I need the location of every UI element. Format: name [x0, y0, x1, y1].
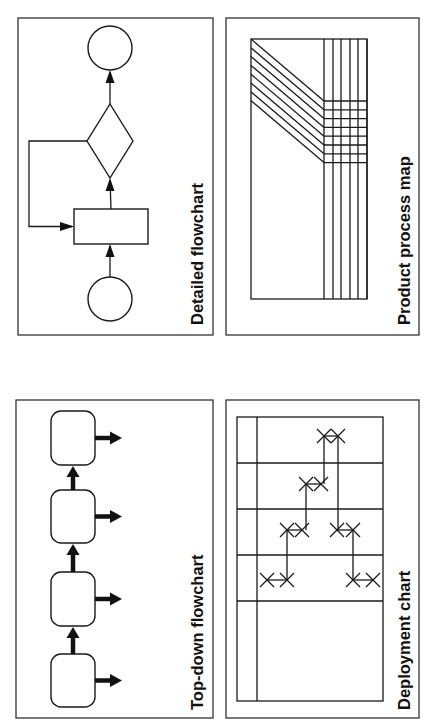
panel-deployment-chart: Deployment chart: [226, 400, 419, 718]
panel-detailed-flowchart: Detailed flowchart: [18, 18, 213, 335]
step-box: [51, 572, 95, 626]
panel-frame: [226, 400, 419, 718]
flowchart-types-figure: Detailed flowchart Product process map T…: [0, 0, 436, 723]
panel-product-process-map: Product process map: [226, 18, 419, 335]
process-box: [74, 209, 148, 244]
panel-label-top-down-flowchart: Top-down flowchart: [188, 554, 206, 710]
end-circle: [88, 26, 132, 70]
step-box: [51, 654, 95, 707]
panel-top-down-flowchart: Top-down flowchart: [16, 400, 213, 718]
panel-frame: [226, 18, 419, 335]
step-box: [51, 490, 95, 543]
start-circle: [88, 277, 132, 321]
panel-label-detailed-flowchart: Detailed flowchart: [188, 182, 206, 325]
step-box: [51, 411, 95, 465]
panel-label-deployment-chart: Deployment chart: [395, 570, 413, 710]
panel-frame: [16, 400, 213, 718]
panel-label-product-process-map: Product process map: [395, 156, 413, 325]
